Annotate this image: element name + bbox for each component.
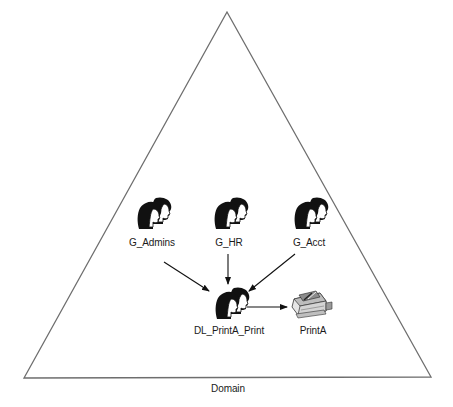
node-label-printa: PrintA <box>300 325 327 336</box>
domain-diagram <box>0 0 453 407</box>
node-label-g-acct: G_Acct <box>293 237 325 248</box>
node-label-dl-printa-print: DL_PrintA_Print <box>194 325 264 336</box>
domain-boundary <box>24 12 431 378</box>
group-users-icon <box>138 197 172 229</box>
printer-icon <box>292 291 332 318</box>
edge-g-admins-to-dl <box>164 262 209 291</box>
edge-g-acct-to-dl <box>249 254 295 291</box>
node-label-g-admins: G_Admins <box>129 237 175 248</box>
group-users-icon <box>216 287 250 319</box>
domain-label: Domain <box>211 383 245 394</box>
group-users-icon <box>295 197 329 229</box>
node-label-g-hr: G_HR <box>215 237 242 248</box>
group-users-icon <box>215 197 249 229</box>
